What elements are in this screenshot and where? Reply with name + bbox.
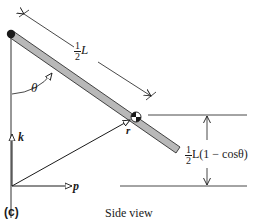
half-length-label: 12L [74,41,88,62]
panel-label: (c) [4,206,19,218]
p-axis-label: p [73,180,79,192]
height-label: 12L(1 − cosθ) [185,144,248,167]
center-of-mass-marker [131,112,141,122]
figure-caption: Side view [105,207,153,219]
side-view-diagram [0,0,253,224]
r-vector-label: r [126,125,130,136]
fraction-denominator: 2 [185,156,192,166]
length-symbol: L [81,42,88,57]
position-vector-r [12,120,130,186]
height-expression: L(1 − cosθ) [192,147,248,161]
pivot-point [7,30,15,38]
theta-label: θ [31,81,37,94]
fraction-denominator: 2 [74,52,81,62]
k-axis-label: k [18,131,24,143]
